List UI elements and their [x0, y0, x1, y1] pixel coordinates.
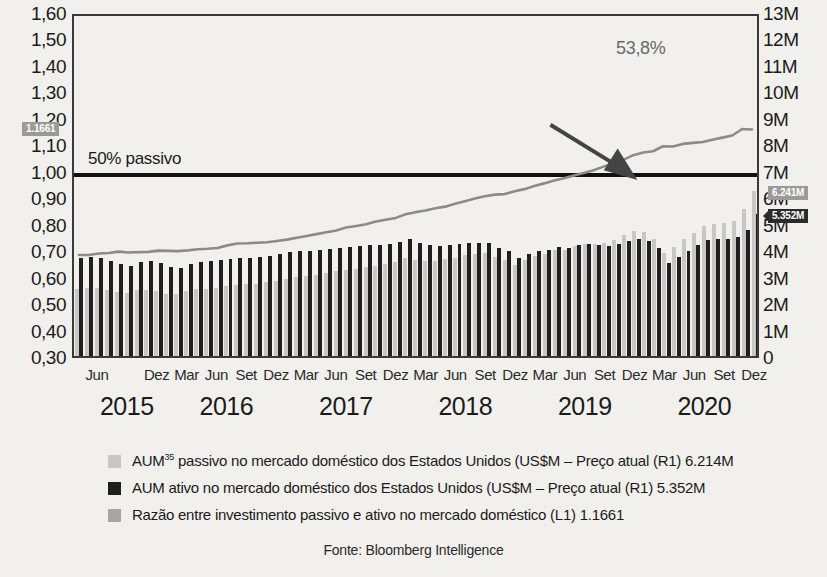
x-axis-month-label: Jun: [444, 366, 467, 383]
bar-active: [209, 261, 213, 356]
bar-passive: [264, 282, 268, 356]
annotation-percent: 53,8%: [616, 38, 666, 59]
bar-active: [428, 245, 432, 356]
left-axis-tick: 0,90: [31, 189, 66, 208]
bar-active: [169, 267, 173, 356]
legend-label: AUM ativo no mercado doméstico dos Estad…: [132, 479, 705, 498]
x-axis-month-label: Dez: [741, 366, 766, 383]
bar-passive: [692, 233, 696, 356]
bar-passive: [493, 257, 497, 356]
bar-active: [587, 244, 591, 356]
bar-passive: [742, 209, 746, 356]
left-axis-tick: 1,10: [31, 136, 66, 155]
legend-swatch-active: [108, 482, 121, 495]
bar-passive: [274, 281, 278, 356]
x-axis-month-label: Mar: [413, 366, 438, 383]
value-badge: 6.241M: [768, 186, 808, 200]
legend-label: AUM35 passivo no mercado doméstico dos E…: [132, 452, 734, 471]
bar-active: [189, 264, 193, 356]
bar-passive: [553, 250, 557, 356]
bar-passive: [483, 253, 487, 356]
right-axis-tick: 12M: [763, 30, 798, 49]
bar-passive: [672, 247, 676, 356]
legend-label: Razão entre investimento passivo e ativo…: [132, 506, 624, 525]
value-badge: 1.1661: [22, 122, 59, 136]
bar-active: [348, 247, 352, 356]
plot-inner: 50% passivo 53,8%: [74, 16, 757, 356]
bar-active: [149, 261, 153, 356]
bar-active: [497, 248, 501, 356]
x-axis-month-label: Set: [355, 366, 376, 383]
bar-passive: [214, 288, 218, 356]
right-axis-tick: 9M: [763, 110, 788, 129]
x-axis-month-label: Dez: [144, 366, 169, 383]
bar-passive: [682, 239, 686, 356]
bar-active: [109, 261, 113, 356]
bar-passive: [284, 279, 288, 356]
bar-active: [159, 263, 163, 356]
bar-active: [487, 243, 491, 356]
x-axis-month-label: Mar: [294, 366, 319, 383]
bar-passive: [85, 288, 89, 356]
bar-active: [438, 246, 442, 356]
bar-passive: [75, 289, 79, 356]
bar-passive: [224, 286, 228, 356]
left-axis-tick: 0,60: [31, 269, 66, 288]
chart-page: 1,601,501,401,301,201,101,000,900,800,70…: [0, 0, 827, 577]
bar-active: [607, 246, 611, 356]
bar-passive: [344, 270, 348, 356]
bar-passive: [702, 226, 706, 356]
bar-passive: [154, 291, 158, 356]
left-axis-tick: 0,80: [31, 216, 66, 235]
right-axis-tick: 0: [763, 348, 773, 367]
bar-active: [736, 237, 740, 356]
legend-item: AUM35 passivo no mercado doméstico dos E…: [108, 452, 808, 472]
left-axis-tick: 0,40: [31, 322, 66, 341]
x-axis-month-label: Dez: [383, 366, 408, 383]
bar-passive: [194, 289, 198, 356]
bar-passive: [423, 261, 427, 356]
bar-active: [746, 230, 750, 356]
x-axis-month-label: Jun: [205, 366, 228, 383]
bar-passive: [443, 259, 447, 356]
bar-active: [667, 263, 671, 356]
bar-passive: [652, 239, 656, 356]
bar-passive: [523, 260, 527, 356]
legend-footnote-marker: 35: [165, 452, 175, 462]
bar-active: [199, 262, 203, 356]
bar-passive: [543, 254, 547, 356]
bar-passive: [393, 262, 397, 356]
left-axis-tick: 1,60: [31, 4, 66, 23]
bar-active: [537, 251, 541, 356]
right-axis-tick: 13M: [763, 4, 798, 23]
x-axis-year-label: 2017: [319, 392, 373, 421]
left-axis-tick: 1,30: [31, 83, 66, 102]
left-axis-tick: 0,30: [31, 348, 66, 367]
x-axis-month-label: Set: [475, 366, 496, 383]
x-axis-year-label: 2020: [677, 392, 731, 421]
x-axis-year-label: 2016: [200, 392, 254, 421]
bar-active: [567, 248, 571, 356]
bar-passive: [602, 243, 606, 356]
bar-passive: [294, 277, 298, 356]
reference-line-50pct: [74, 173, 757, 177]
bar-passive: [403, 258, 407, 356]
legend-item: AUM ativo no mercado doméstico dos Estad…: [108, 479, 808, 499]
bar-active: [467, 243, 471, 356]
bar-passive: [105, 290, 109, 356]
bar-passive: [164, 294, 168, 356]
bar-passive: [234, 285, 238, 356]
bar-active: [358, 246, 362, 356]
bar-passive: [563, 250, 567, 356]
bar-active: [388, 244, 392, 356]
bar-passive: [174, 294, 178, 356]
bar-passive: [204, 289, 208, 356]
bar-active: [99, 258, 103, 356]
bar-active: [278, 254, 282, 356]
right-axis-tick: 1M: [763, 322, 788, 341]
left-axis-tick: 1,00: [31, 163, 66, 182]
x-axis-month-label: Set: [236, 366, 257, 383]
bar-active: [597, 245, 601, 356]
bar-active: [448, 245, 452, 356]
bar-passive: [254, 284, 258, 357]
